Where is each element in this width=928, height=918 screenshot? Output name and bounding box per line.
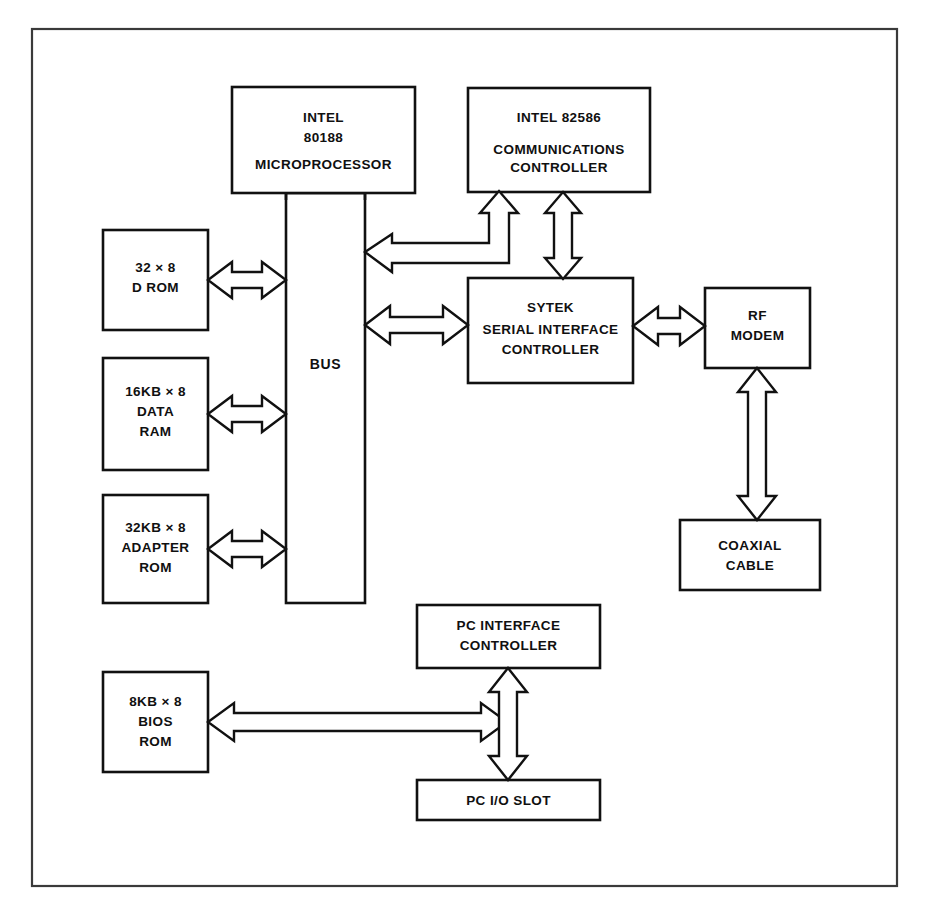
- adapter-rom-line3: ROM: [139, 560, 172, 575]
- bios-rom-line1: 8KB × 8: [129, 694, 182, 709]
- d-rom-line1: 32 × 8: [135, 260, 175, 275]
- adapter-rom-line2: ADAPTER: [121, 540, 189, 555]
- microprocessor-line3: MICROPROCESSOR: [255, 157, 392, 172]
- bios-rom-line3: ROM: [139, 734, 172, 749]
- data-ram-line1: 16KB × 8: [125, 384, 186, 399]
- connector-d-rom-bus: [208, 262, 286, 298]
- block-diagram-figure: BUS INTEL 80188 MICROPROCESSOR INTEL 825…: [0, 0, 928, 918]
- rf-modem-line1: RF: [748, 308, 767, 323]
- connector-rf-modem-coaxial-cable: [738, 368, 776, 520]
- adapter-rom-line1: 32KB × 8: [125, 520, 186, 535]
- microprocessor-line1: INTEL: [303, 110, 344, 125]
- diagram-canvas: BUS INTEL 80188 MICROPROCESSOR INTEL 825…: [0, 0, 928, 918]
- connector-adapter-rom-bus: [208, 531, 286, 567]
- serial-interface-controller-line2: SERIAL INTERFACE: [483, 322, 619, 337]
- serial-interface-controller-line1: SYTEK: [527, 300, 574, 315]
- communications-controller-line3: CONTROLLER: [510, 160, 608, 175]
- communications-controller-line2: COMMUNICATIONS: [493, 142, 624, 157]
- pc-io-slot-label: PC I/O SLOT: [466, 793, 551, 808]
- pc-interface-controller-block: [417, 605, 600, 668]
- bus-label: BUS: [310, 356, 341, 372]
- connector-sytek-rf-modem: [633, 307, 705, 345]
- connector-data-ram-bus: [208, 396, 286, 432]
- serial-interface-controller-line3: CONTROLLER: [502, 342, 600, 357]
- connector-bios-rom-pc-interface: [208, 703, 507, 741]
- rf-modem-line2: MODEM: [731, 328, 785, 343]
- pc-interface-controller-line1: PC INTERFACE: [457, 618, 561, 633]
- coaxial-cable-block: [680, 520, 820, 590]
- bios-rom-line2: BIOS: [138, 714, 173, 729]
- pc-interface-controller-line2: CONTROLLER: [460, 638, 558, 653]
- communications-controller-line1: INTEL 82586: [517, 110, 602, 125]
- d-rom-line2: D ROM: [132, 280, 179, 295]
- data-ram-line2: DATA: [137, 404, 174, 419]
- coaxial-cable-line2: CABLE: [726, 558, 775, 573]
- connector-bus-sytek: [365, 306, 468, 344]
- data-ram-line3: RAM: [140, 424, 172, 439]
- microprocessor-line2: 80188: [304, 130, 344, 145]
- connector-communications-controller-bus: [365, 191, 518, 272]
- bus-block: [286, 193, 365, 603]
- coaxial-cable-line1: COAXIAL: [718, 538, 782, 553]
- connector-communications-controller-sytek: [545, 192, 581, 279]
- communications-controller-block: [468, 88, 650, 192]
